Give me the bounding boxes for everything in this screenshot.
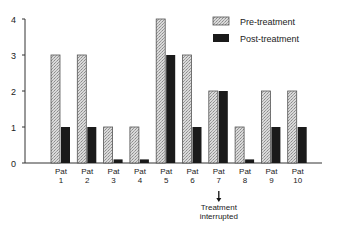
y-tick-label: 1 [11, 123, 16, 133]
x-tick-label: 9 [269, 176, 274, 185]
x-tick-label: 10 [293, 176, 302, 185]
annotation-treatment-interrupted: Treatmentinterrupted [200, 191, 238, 221]
arrow-down-icon [216, 198, 221, 202]
x-tick-label: 6 [190, 176, 195, 185]
bar-post-treatment [193, 127, 202, 163]
x-tick-label: 3 [111, 176, 116, 185]
bar-post-treatment [166, 55, 175, 163]
y-tick-label: 2 [11, 87, 16, 97]
x-tick-label: Pat [81, 167, 94, 176]
x-tick-label: Pat [186, 167, 199, 176]
x-tick-label: Pat [160, 167, 173, 176]
x-tick-label: Pat [265, 167, 278, 176]
bar-chart: 01234 Pat1Pat2Pat3Pat4Pat5Pat6Pat7Pat8Pa… [0, 0, 337, 226]
bar-pre-treatment [51, 55, 60, 163]
bar-pre-treatment [183, 55, 192, 163]
legend-swatch-pre-treatment [213, 17, 229, 25]
bar-post-treatment [140, 159, 149, 163]
bar-post-treatment [114, 159, 123, 163]
x-axis-labels: Pat1Pat2Pat3Pat4Pat5Pat6Pat7Pat8Pat9Pat1… [55, 167, 304, 185]
x-tick-label: Pat [213, 167, 226, 176]
annotation-text: Treatment [201, 203, 238, 212]
bar-post-treatment [245, 159, 254, 163]
x-tick-label: 5 [164, 176, 169, 185]
x-tick-label: 4 [138, 176, 143, 185]
y-tick-label: 4 [11, 15, 16, 25]
bar-pre-treatment [77, 55, 86, 163]
x-tick-label: Pat [134, 167, 147, 176]
x-tick-label: Pat [292, 167, 305, 176]
x-tick-label: Pat [108, 167, 121, 176]
bar-pre-treatment [261, 91, 270, 163]
legend: Pre-treatmentPost-treatment [213, 17, 300, 44]
x-tick-label: 7 [217, 176, 222, 185]
bar-post-treatment [219, 91, 228, 163]
bar-pre-treatment [104, 127, 113, 163]
x-tick-label: 2 [85, 176, 90, 185]
bar-post-treatment [61, 127, 70, 163]
y-tick-label: 0 [11, 159, 16, 169]
y-tick-label: 3 [11, 51, 16, 61]
x-tick-label: Pat [239, 167, 252, 176]
legend-label: Post-treatment [240, 34, 300, 44]
legend-label: Pre-treatment [240, 17, 296, 27]
x-tick-label: Pat [55, 167, 68, 176]
bar-post-treatment [87, 127, 96, 163]
bar-post-treatment [271, 127, 280, 163]
chart-canvas: 01234 Pat1Pat2Pat3Pat4Pat5Pat6Pat7Pat8Pa… [0, 0, 337, 226]
bar-post-treatment [298, 127, 307, 163]
bar-pre-treatment [130, 127, 139, 163]
x-tick-label: 8 [243, 176, 248, 185]
legend-swatch-post-treatment [213, 34, 229, 42]
x-tick-label: 1 [59, 176, 64, 185]
bar-pre-treatment [235, 127, 244, 163]
bar-pre-treatment [156, 19, 165, 163]
bar-pre-treatment [209, 91, 218, 163]
bar-pre-treatment [288, 91, 297, 163]
annotation-text: interrupted [200, 212, 238, 221]
